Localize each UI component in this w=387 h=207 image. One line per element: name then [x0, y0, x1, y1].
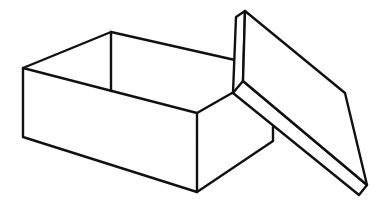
box-back-left-edge [23, 32, 111, 68]
box-right-side [197, 127, 273, 192]
open-box-illustration [0, 0, 387, 207]
box-back-top-edge [111, 32, 235, 60]
lid-top-face [243, 11, 367, 185]
box-right-top-edge [197, 93, 232, 113]
lid [233, 11, 367, 195]
